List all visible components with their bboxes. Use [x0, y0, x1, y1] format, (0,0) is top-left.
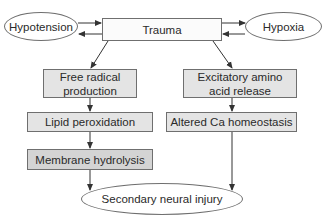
node-label: Altered Ca homeostasis — [170, 115, 292, 129]
arrow-trauma-to-excitatory — [213, 41, 232, 68]
node-trauma: Trauma — [102, 18, 222, 41]
node-membrane-hydrolysis: Membrane hydrolysis — [27, 149, 153, 170]
node-altered-ca-homeostasis: Altered Ca homeostasis — [166, 112, 297, 132]
node-excitatory-amino-acid-release: Excitatory amino acid release — [183, 69, 297, 98]
node-label: Hypotension — [9, 20, 73, 34]
node-hypotension: Hypotension — [4, 12, 78, 41]
node-label: Free radical production — [50, 70, 130, 98]
node-label: Hypoxia — [263, 20, 305, 34]
node-secondary-neural-injury: Secondary neural injury — [81, 183, 243, 215]
node-label: Membrane hydrolysis — [35, 153, 144, 167]
arrow-trauma-to-free-radical — [91, 41, 108, 68]
node-label: Excitatory amino acid release — [192, 70, 288, 98]
node-label: Lipid peroxidation — [45, 115, 135, 129]
node-free-radical-production: Free radical production — [43, 69, 137, 98]
node-label: Secondary neural injury — [102, 192, 223, 206]
node-lipid-peroxidation: Lipid peroxidation — [27, 112, 153, 132]
node-label: Trauma — [142, 23, 181, 37]
node-hypoxia: Hypoxia — [245, 12, 322, 41]
